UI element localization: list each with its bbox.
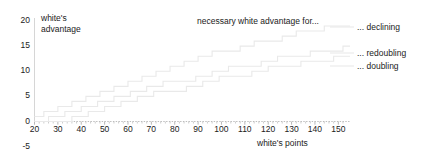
x-tick-label: 130 xyxy=(279,125,305,134)
legend-item-declining[interactable]: ... declining xyxy=(357,22,400,32)
x-tick-label: 40 xyxy=(68,125,94,134)
x-tick-label: 100 xyxy=(208,125,234,134)
x-tick-label: 140 xyxy=(302,125,328,134)
y-tick-label: 5 xyxy=(6,91,30,100)
y-tick-label: 20 xyxy=(6,16,30,25)
y-tick-label: -5 xyxy=(6,142,30,151)
y-axis-title: white's advantage xyxy=(41,13,81,35)
legend-item-redoubling[interactable]: ... redoubling xyxy=(357,48,406,58)
series-lines xyxy=(35,26,351,121)
y-axis-title-line2: advantage xyxy=(41,24,81,35)
x-tick-label: 70 xyxy=(138,125,164,134)
x-tick-label: 30 xyxy=(45,125,71,134)
chart-title: necessary white advantage for... xyxy=(197,16,319,26)
x-tick-label: 60 xyxy=(115,125,141,134)
series-line-doubling xyxy=(35,56,351,121)
y-tick-label: 10 xyxy=(6,66,30,75)
legend-item-doubling[interactable]: ... doubling xyxy=(357,61,399,71)
x-axis-title: white's points xyxy=(257,138,308,148)
x-tick-label: 50 xyxy=(92,125,118,134)
x-tick-label: 80 xyxy=(162,125,188,134)
x-tick-label: 90 xyxy=(185,125,211,134)
x-tick-label: 120 xyxy=(255,125,281,134)
x-tick-label: 150 xyxy=(325,125,351,134)
series-line-redoubling xyxy=(35,46,351,121)
series-line-declining xyxy=(35,26,351,116)
x-tick-label: 20 xyxy=(22,125,48,134)
x-tick-label: 110 xyxy=(232,125,258,134)
y-axis-title-line1: white's xyxy=(41,13,81,24)
chart-container: 20151050-5 20304050607080901001101201301… xyxy=(0,0,426,158)
y-tick-label: 15 xyxy=(6,41,30,50)
